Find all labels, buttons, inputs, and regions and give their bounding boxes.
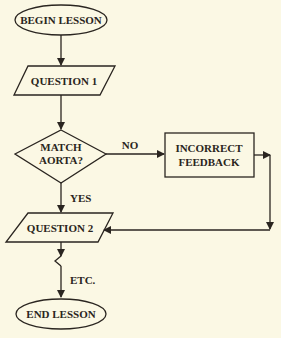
decision-label-2: AORTA? [39,154,83,166]
feedback-label-2: FEEDBACK [178,156,240,168]
no-label: NO [122,139,139,151]
begin-label: BEGIN LESSON [20,14,102,26]
feedback-label-1: INCORRECT [175,142,243,154]
question-1-label: QUESTION 1 [31,75,97,87]
decision-label-1: MATCH [40,141,82,153]
question-2-label: QUESTION 2 [27,222,94,234]
etc-label: ETC. [70,274,96,286]
yes-label: YES [70,192,91,204]
end-label: END LESSON [26,308,95,320]
break-symbol [55,256,61,266]
feedback-shape [165,133,254,177]
flowchart: BEGIN LESSON QUESTION 1 MATCH AORTA? NO … [0,0,281,338]
